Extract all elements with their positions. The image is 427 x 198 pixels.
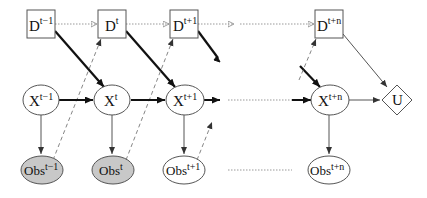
- decision-node-t+1[interactable]: Dt+1: [170, 10, 198, 38]
- state-node-t[interactable]: Xt: [94, 85, 130, 115]
- decision-node-t[interactable]: Dt: [98, 10, 126, 38]
- state-node-t+n[interactable]: Xt+n: [311, 85, 349, 115]
- observation-node-t+n[interactable]: Obst+n: [308, 156, 350, 184]
- decision-node-t-1[interactable]: Dt−1: [27, 10, 55, 38]
- dynamic-decision-network-diagram: Dt−1 Dt Dt+1 Dt+n Xt−1 Xt Xt+1 Xt+n U Ob…: [0, 0, 427, 198]
- state-node-t+1[interactable]: Xt+1: [166, 85, 204, 115]
- svg-text:U: U: [392, 92, 403, 108]
- decision-node-t+n[interactable]: Dt+n: [315, 10, 343, 38]
- observation-node-t+1[interactable]: Obst+1: [163, 156, 205, 184]
- state-node-t-1[interactable]: Xt−1: [23, 85, 59, 115]
- utility-node[interactable]: U: [382, 85, 412, 115]
- observation-node-t-1[interactable]: Obst−1: [21, 156, 63, 184]
- svg-text:Obst: Obst: [99, 161, 123, 178]
- observation-node-t[interactable]: Obst: [92, 156, 134, 184]
- decision-to-state-edges: [55, 31, 320, 87]
- state-to-observation-edges: [41, 115, 329, 154]
